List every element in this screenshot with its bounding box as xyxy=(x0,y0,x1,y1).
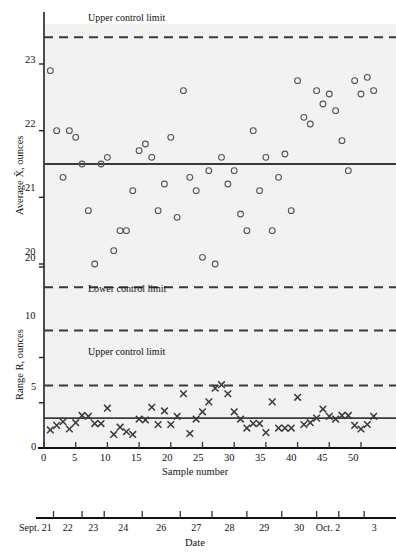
xbar-data-point xyxy=(193,188,199,194)
xbar-data-point xyxy=(371,88,377,94)
range-data-point xyxy=(104,405,111,412)
xtick-25: 25 xyxy=(193,452,204,463)
xbar-data-point xyxy=(326,91,332,97)
range-data-point xyxy=(301,421,308,428)
range-data-point xyxy=(136,416,143,423)
range-data-point xyxy=(60,418,67,425)
range-y-axis-title: Range R, ounces xyxy=(14,329,25,400)
xbar-data-point xyxy=(250,128,256,134)
xbar-data-point xyxy=(333,108,339,114)
range-data-point xyxy=(320,406,327,413)
ytick-22: 22 xyxy=(25,118,36,129)
range-data-point xyxy=(66,426,73,433)
date-label-6: 28 xyxy=(224,522,234,533)
rtick-0: 0 xyxy=(31,441,36,452)
xbar-data-point xyxy=(231,168,237,174)
date-axis-title: Date xyxy=(185,537,205,548)
range-data-point xyxy=(250,420,257,427)
xbar-data-point xyxy=(345,168,351,174)
xbar-data-point xyxy=(244,228,250,234)
range-data-point xyxy=(282,425,289,432)
xbar-data-point xyxy=(54,128,60,134)
range-data-point xyxy=(231,409,238,416)
range-data-point xyxy=(199,409,206,416)
xbar-data-point xyxy=(307,121,313,127)
date-label-2: 23 xyxy=(88,522,98,533)
xbar-data-point xyxy=(352,78,358,84)
range-data-point xyxy=(167,421,174,428)
date-label-10: 3 xyxy=(372,522,377,533)
xtick-35: 35 xyxy=(255,452,266,463)
xbar-data-point xyxy=(60,174,66,180)
range-data-point xyxy=(98,420,105,427)
xbar-data-point xyxy=(364,74,370,80)
xbar-data-point xyxy=(47,68,53,74)
xbar-data-point xyxy=(136,148,142,154)
lcl-label-xbar: Lower control limit xyxy=(88,283,166,294)
xbar-data-point xyxy=(339,138,345,144)
range-data-point xyxy=(218,381,225,388)
range-data-point xyxy=(187,430,194,437)
xbar-data-point xyxy=(200,254,206,260)
xbar-data-point xyxy=(269,228,275,234)
xbar-data-point xyxy=(257,188,263,194)
range-data-point xyxy=(294,394,301,401)
date-label-3: 24 xyxy=(118,522,128,533)
xbar-data-point xyxy=(301,114,307,120)
xbar-data-point xyxy=(168,134,174,140)
range-data-point xyxy=(53,422,60,429)
range-data-point xyxy=(161,408,168,415)
rtick-5: 5 xyxy=(31,381,36,392)
xbar-data-point xyxy=(212,261,218,267)
xbar-y-axis-title: Average X̄, ounces xyxy=(14,136,25,215)
xbar-data-point xyxy=(149,154,155,160)
xbar-data-point xyxy=(358,91,364,97)
xtick-50: 50 xyxy=(348,452,359,463)
range-data-point xyxy=(117,424,124,431)
date-label-7: 29 xyxy=(259,522,269,533)
xbar-data-point xyxy=(105,154,111,160)
xbar-data-point xyxy=(219,154,225,160)
xbar-data-point xyxy=(238,211,244,217)
xbar-data-point xyxy=(162,181,168,187)
xbar-data-point xyxy=(92,261,98,267)
range-data-point xyxy=(275,425,282,432)
xbar-data-point xyxy=(314,88,320,94)
ytick-23: 23 xyxy=(25,54,36,65)
xbar-data-point xyxy=(155,208,161,214)
xbar-data-point xyxy=(276,174,282,180)
xbar-data-point xyxy=(143,141,149,147)
rtick-10: 10 xyxy=(25,310,36,321)
xbar-data-point xyxy=(187,174,193,180)
date-label-4: 26 xyxy=(156,522,166,533)
range-data-point xyxy=(193,416,200,423)
control-chart-figure: Average X̄, ounces Range R, ounces 23 22… xyxy=(0,0,396,555)
xbar-data-point xyxy=(282,151,288,157)
xbar-data-point xyxy=(85,208,91,214)
range-data-point xyxy=(351,422,358,429)
range-data-point xyxy=(110,431,117,438)
xtick-20: 20 xyxy=(162,452,173,463)
range-data-point xyxy=(244,425,251,432)
xbar-data-point xyxy=(263,154,269,160)
range-data-point xyxy=(269,399,276,406)
range-data-point xyxy=(123,428,130,435)
xbar-data-point xyxy=(295,78,301,84)
xbar-data-point xyxy=(288,208,294,214)
xbar-data-point xyxy=(225,181,231,187)
range-data-point xyxy=(155,421,162,428)
xtick-45: 45 xyxy=(317,452,328,463)
date-label-1: 22 xyxy=(63,522,73,533)
range-data-point xyxy=(332,416,339,423)
rtick-20: 20 xyxy=(25,252,36,263)
xbar-data-point xyxy=(117,228,123,234)
range-data-point xyxy=(129,431,136,438)
xbar-data-point xyxy=(320,101,326,107)
range-data-point xyxy=(263,429,270,436)
ucl-label-range: Upper control limit xyxy=(88,346,165,357)
xbar-data-point xyxy=(174,214,180,220)
xbar-data-point xyxy=(124,228,130,234)
ucl-label-xbar: Upper control limit xyxy=(88,12,165,23)
xtick-0: 0 xyxy=(41,452,46,463)
xbar-data-point xyxy=(66,128,72,134)
